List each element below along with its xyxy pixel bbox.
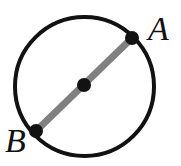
point-marker-center: [77, 78, 91, 92]
point-marker-b: [29, 124, 43, 138]
point-label-b: B: [5, 124, 26, 158]
point-label-a: A: [148, 12, 169, 46]
circle-diagram-figure: A B: [0, 0, 181, 166]
point-marker-a: [125, 31, 139, 45]
